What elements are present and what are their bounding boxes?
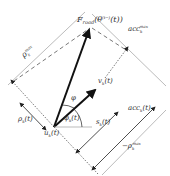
neg-rho-max-label: −ρkmax: [122, 141, 142, 151]
acc-k-label: acck(t): [128, 104, 151, 113]
rho-k-label: ρk(t): [17, 115, 33, 124]
phi-arc: [62, 105, 74, 108]
force-label: Froad(θ(t−)(t)): [76, 15, 123, 25]
u-k-label: uk(t): [44, 129, 59, 138]
phi-k-label: φk(t): [64, 114, 80, 123]
rho-max-label: ρkmax: [19, 43, 37, 61]
vector-diagram: Froad(θ(t−)(t)) acckmax ρkmax vk(t) φ φk…: [0, 0, 170, 176]
acc-k-arrow: [92, 107, 155, 170]
velocity-label: vk(t): [98, 77, 113, 86]
dashed-projections: [14, 28, 126, 81]
s-k-label: sk(t): [96, 118, 111, 127]
acc-max-label: acckmax: [128, 24, 149, 34]
phi-label: φ: [71, 94, 76, 102]
